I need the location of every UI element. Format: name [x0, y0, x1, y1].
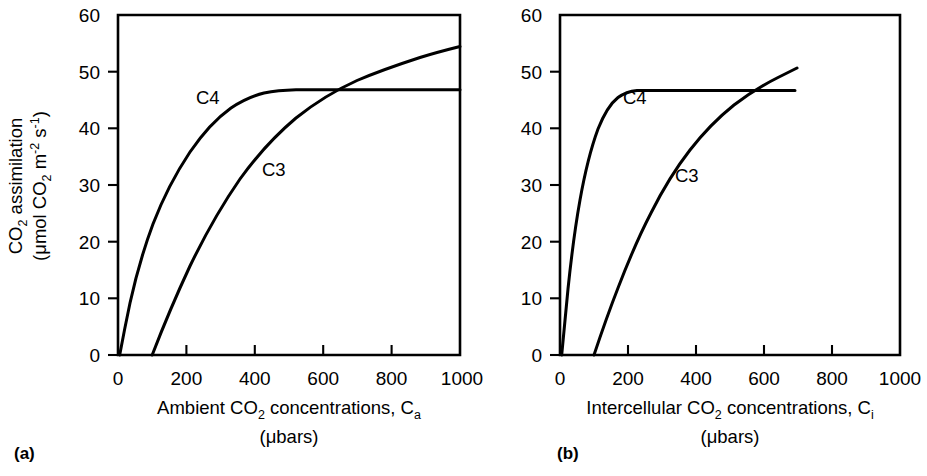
svg-text:50: 50: [521, 62, 542, 83]
svg-text:50: 50: [79, 62, 100, 83]
curve-c4-a: [120, 90, 460, 355]
panel-tag-b: (b): [557, 444, 579, 463]
x-axis-label-a: Ambient CO2 concentrations, Ca: [157, 397, 421, 422]
figure-co2-assimilation-response-curves: CO2 assimilation (μmol CO2 m-2 s-1) 0 10…: [0, 0, 927, 476]
svg-text:0: 0: [89, 345, 100, 366]
curve-label-c3-a: C3: [262, 159, 286, 180]
svg-text:30: 30: [79, 175, 100, 196]
panel-b: 0 10 20 30 40 50 60 0 200 400 600: [457, 0, 927, 476]
svg-text:200: 200: [171, 368, 203, 389]
svg-text:200: 200: [612, 368, 644, 389]
svg-text:20: 20: [521, 232, 542, 253]
curve-label-c3-b: C3: [675, 165, 699, 186]
panel-a: CO2 assimilation (μmol CO2 m-2 s-1) 0 10…: [0, 0, 470, 476]
svg-text:30: 30: [521, 175, 542, 196]
y-ticks-b: [550, 72, 560, 355]
panel-a-plot: CO2 assimilation (μmol CO2 m-2 s-1) 0 10…: [0, 0, 470, 476]
x-axis-units-b: (μbars): [701, 426, 760, 447]
svg-text:400: 400: [680, 368, 712, 389]
svg-text:400: 400: [239, 368, 271, 389]
curve-label-c4-a: C4: [196, 87, 220, 108]
svg-text:1000: 1000: [879, 368, 921, 389]
svg-text:600: 600: [748, 368, 780, 389]
y-ticks-a: [108, 72, 118, 355]
svg-text:600: 600: [307, 368, 339, 389]
svg-text:40: 40: [79, 118, 100, 139]
panel-b-plot: 0 10 20 30 40 50 60 0 200 400 600: [457, 0, 927, 476]
x-ticks-b: [628, 345, 832, 355]
svg-text:10: 10: [79, 288, 100, 309]
x-ticks-a: [186, 345, 391, 355]
y-tick-labels-b: 0 10 20 30 40 50 60: [521, 5, 542, 366]
x-tick-labels-b: 0 200 400 600 800 1000: [555, 368, 921, 389]
x-axis-label-b: Intercellular CO2 concentrations, Ci: [586, 397, 873, 422]
svg-text:20: 20: [79, 232, 100, 253]
x-tick-labels-a: 0 200 400 600 800 1000: [113, 368, 483, 389]
curve-label-c4-b: C4: [623, 87, 647, 108]
svg-text:800: 800: [376, 368, 408, 389]
svg-text:60: 60: [521, 5, 542, 26]
panel-tag-a: (a): [14, 444, 35, 463]
svg-text:60: 60: [79, 5, 100, 26]
svg-text:10: 10: [521, 288, 542, 309]
x-axis-units-a: (μbars): [260, 426, 319, 447]
y-axis-label-line1: CO2 assimilation: [5, 118, 30, 255]
svg-text:0: 0: [555, 368, 566, 389]
y-axis-label-line2: (μmol CO2 m-2 s-1): [28, 111, 54, 261]
curve-c3-b: [594, 68, 797, 355]
svg-text:0: 0: [113, 368, 124, 389]
svg-text:800: 800: [816, 368, 848, 389]
svg-text:40: 40: [521, 118, 542, 139]
curve-c4-b: [562, 90, 795, 355]
y-tick-labels-a: 0 10 20 30 40 50 60: [79, 5, 100, 366]
svg-text:0: 0: [531, 345, 542, 366]
